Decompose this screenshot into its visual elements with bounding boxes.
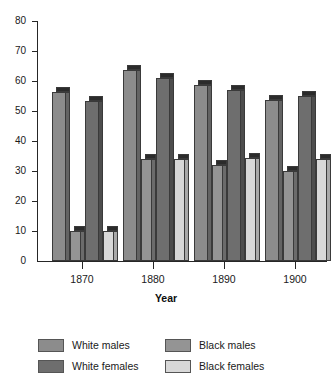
bar-1900-white-females: [298, 91, 312, 261]
ytick-label-10: 10: [2, 226, 26, 236]
y-axis-line: [37, 21, 38, 262]
legend-swatch-white-males: [38, 339, 64, 352]
ytick-label-20: 20: [2, 196, 26, 206]
ytick-label-40: 40: [2, 136, 26, 146]
legend-swatch-black-males: [165, 339, 191, 352]
ytick-label-30: 30: [2, 166, 26, 176]
bar-1880-black-males: [141, 154, 152, 261]
xtick-mark-1890: [224, 262, 225, 269]
bar-1880-white-males: [123, 65, 137, 261]
bar-1900-black-females: [316, 154, 327, 261]
xtick-mark-1900: [295, 262, 296, 269]
ytick-label-50: 50: [2, 106, 26, 116]
legend-swatch-white-females: [38, 360, 64, 373]
xtick-mark-1880: [153, 262, 154, 269]
bar-1870-black-females: [103, 226, 114, 261]
legend-label-black-females: Black females: [199, 359, 264, 374]
legend-label-black-males: Black males: [199, 338, 256, 353]
bar-1870-white-males: [52, 87, 66, 261]
xtick-mark-1870: [82, 262, 83, 269]
ytick-label-60: 60: [2, 76, 26, 86]
bar-1870-black-males: [70, 226, 81, 261]
bar-1900-white-males: [265, 95, 279, 261]
bar-1880-black-females: [174, 154, 185, 261]
xtick-label-1870: 1870: [59, 273, 105, 285]
bar-1890-black-females: [245, 153, 256, 261]
chart-legend: White males Black males White females Bl…: [0, 332, 332, 392]
xtick-label-1890: 1890: [201, 273, 247, 285]
legend-label-white-males: White males: [72, 338, 130, 353]
bar-1870-white-females: [85, 96, 99, 261]
bar-1900-black-males: [283, 166, 294, 261]
bar-1880-white-females: [156, 73, 170, 261]
bar-1890-white-males: [194, 80, 208, 261]
ytick-label-80: 80: [2, 16, 26, 26]
x-axis-line: [37, 261, 327, 262]
bar-1890-black-males: [212, 160, 223, 261]
legend-swatch-black-females: [165, 360, 191, 373]
plot-area: 80 70 60 50 40 30 20 10 0: [0, 0, 332, 300]
bar-1890-white-females: [227, 85, 241, 261]
xtick-label-1880: 1880: [130, 273, 176, 285]
ytick-label-70: 70: [2, 46, 26, 56]
bar-chart: 80 70 60 50 40 30 20 10 0: [0, 0, 332, 392]
legend-label-white-females: White females: [72, 359, 139, 374]
x-axis-title: Year: [0, 292, 332, 304]
xtick-label-1900: 1900: [272, 273, 318, 285]
ytick-label-0: 0: [2, 256, 26, 266]
